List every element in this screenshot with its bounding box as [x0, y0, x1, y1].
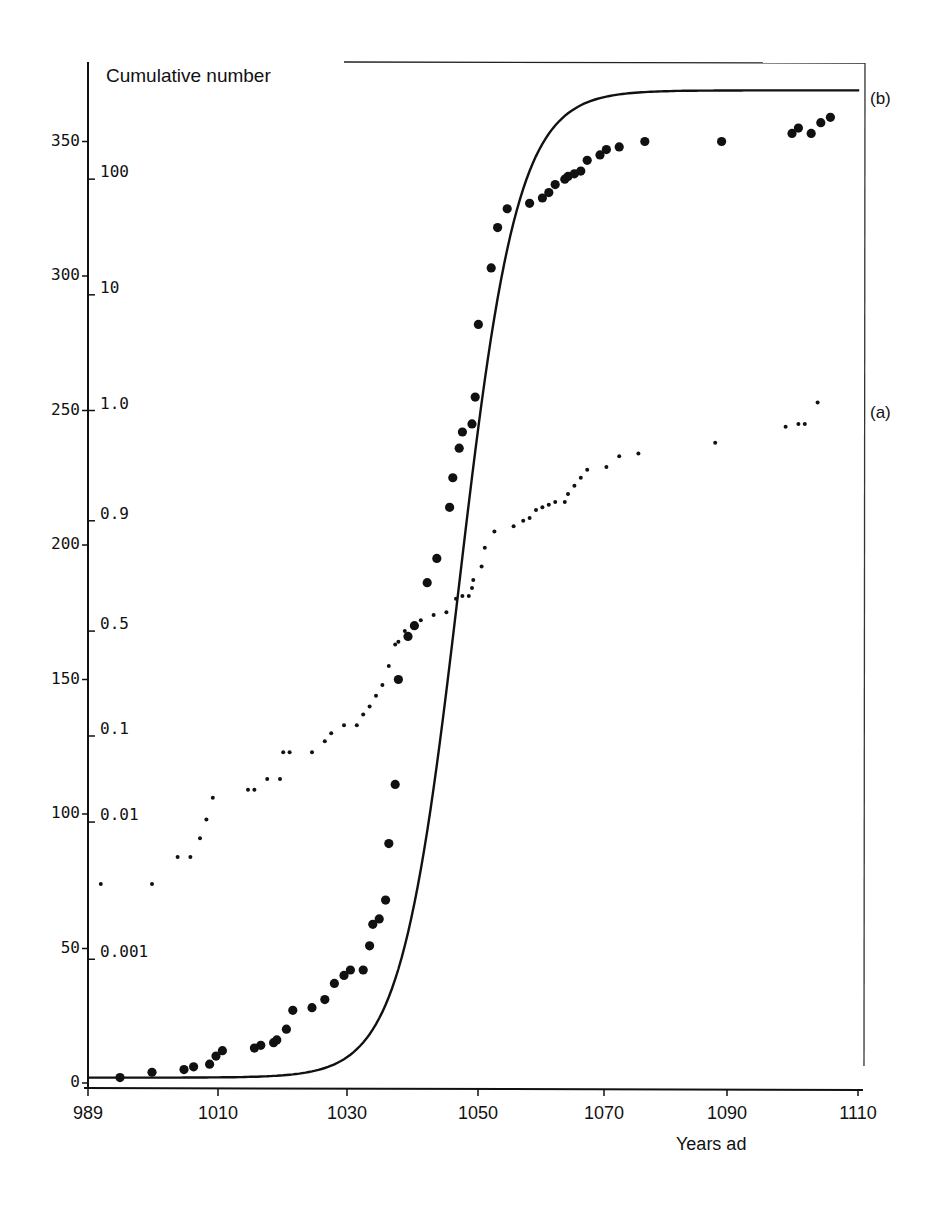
data-point-b — [583, 156, 592, 165]
data-point-a — [150, 882, 154, 886]
data-point-a — [393, 643, 397, 647]
data-point-b — [432, 554, 441, 563]
data-point-b — [525, 199, 534, 208]
data-point-a — [816, 400, 820, 404]
y-axis-title: Cumulative number — [106, 65, 271, 86]
data-point-a — [246, 788, 250, 792]
probability-tick-label: 0.9 — [100, 504, 129, 523]
data-point-a — [329, 731, 333, 735]
data-point-b — [320, 995, 329, 1004]
data-point-b — [205, 1060, 214, 1069]
y-tick-label: 0 — [70, 1072, 80, 1091]
probability-tick-label: 0.001 — [100, 942, 148, 961]
data-point-a — [547, 503, 551, 507]
data-point-b — [394, 675, 403, 684]
data-point-a — [467, 594, 471, 598]
data-point-b — [458, 427, 467, 436]
y-tick-label: 200 — [51, 534, 80, 553]
x-axis-title: Years ad — [676, 1134, 746, 1154]
x-tick-label: 1050 — [458, 1103, 498, 1123]
data-point-b — [381, 895, 390, 904]
data-point-a — [176, 855, 180, 859]
series-b-label: (b) — [870, 89, 891, 108]
data-point-b — [147, 1068, 156, 1077]
data-point-a — [713, 441, 717, 445]
data-point-b — [179, 1065, 188, 1074]
x-tick-label: 1110 — [839, 1103, 876, 1123]
data-point-b — [256, 1041, 265, 1050]
data-point-b — [365, 941, 374, 950]
data-point-b — [794, 123, 803, 132]
data-point-b — [807, 129, 816, 138]
y-tick-label: 250 — [51, 400, 80, 419]
y-tick-label: 350 — [51, 131, 80, 150]
data-point-a — [553, 500, 557, 504]
x-tick-label: 989 — [73, 1103, 103, 1123]
data-point-b — [602, 145, 611, 154]
data-point-a — [387, 664, 391, 668]
chart: Cumulative number Years ad (b) (a) 05010… — [0, 0, 946, 1206]
data-point-b — [384, 839, 393, 848]
series-a-points — [99, 400, 820, 886]
data-point-a — [368, 704, 372, 708]
data-point-a — [361, 712, 365, 716]
y-tick-label: 150 — [51, 669, 80, 688]
data-point-a — [419, 618, 423, 622]
series-b-points — [115, 113, 835, 1083]
data-point-b — [403, 632, 412, 641]
data-point-a — [572, 484, 576, 488]
data-point-a — [460, 594, 464, 598]
data-point-b — [189, 1062, 198, 1071]
x-tick-label: 1090 — [707, 1103, 747, 1123]
data-point-b — [218, 1046, 227, 1055]
top-frame-line — [344, 62, 865, 63]
data-point-a — [99, 882, 103, 886]
data-point-a — [480, 565, 484, 569]
probability-tick-label: 0.01 — [100, 805, 139, 824]
probability-tick-label: 0.5 — [100, 614, 129, 633]
data-point-a — [796, 422, 800, 426]
y-axis-ticks: 050100150200250300350 — [51, 131, 88, 1092]
y-tick-label: 300 — [51, 265, 80, 284]
probability-tick-label: 1.0 — [100, 394, 129, 413]
probability-tick-label: 0.1 — [100, 719, 129, 738]
data-point-a — [470, 586, 474, 590]
data-point-b — [471, 392, 480, 401]
data-point-b — [330, 979, 339, 988]
data-point-b — [816, 118, 825, 127]
data-point-b — [467, 419, 476, 428]
data-point-a — [278, 777, 282, 781]
data-point-b — [359, 965, 368, 974]
data-point-a — [188, 855, 192, 859]
data-point-b — [551, 180, 560, 189]
data-point-b — [474, 320, 483, 329]
data-point-a — [252, 788, 256, 792]
data-point-a — [204, 817, 208, 821]
data-point-a — [636, 452, 640, 456]
data-point-b — [487, 263, 496, 272]
data-point-a — [211, 796, 215, 800]
data-point-b — [826, 113, 835, 122]
data-point-b — [410, 621, 419, 630]
data-point-a — [396, 640, 400, 644]
data-point-b — [445, 503, 454, 512]
data-point-a — [198, 836, 202, 840]
data-point-a — [444, 610, 448, 614]
data-point-b — [493, 223, 502, 232]
data-point-a — [585, 468, 589, 472]
data-point-a — [803, 422, 807, 426]
data-point-a — [323, 739, 327, 743]
data-point-b — [391, 780, 400, 789]
data-point-a — [355, 723, 359, 727]
data-point-b — [288, 1006, 297, 1015]
data-point-a — [604, 465, 608, 469]
data-point-b — [423, 578, 432, 587]
data-point-a — [579, 476, 583, 480]
data-point-a — [288, 750, 292, 754]
data-point-a — [374, 694, 378, 698]
series-a-label: (a) — [870, 403, 891, 422]
data-point-b — [115, 1073, 124, 1082]
data-point-b — [717, 137, 726, 146]
data-point-a — [281, 750, 285, 754]
data-point-b — [455, 444, 464, 453]
